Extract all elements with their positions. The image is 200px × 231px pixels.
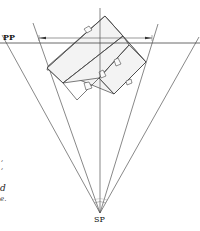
label-sp: SP: [94, 215, 105, 224]
text-fragment-3: d: [0, 183, 6, 193]
arrow-right-icon: [145, 37, 152, 39]
text-fragment-4: e.: [0, 195, 6, 203]
text-fragment-2: ,: [1, 163, 3, 171]
label-pp: PP: [3, 32, 15, 42]
arrow-left-icon: [39, 37, 46, 39]
text-fragment-1: ,: [1, 155, 3, 163]
perspective-diagram: PP SP , , d e.: [0, 0, 200, 231]
